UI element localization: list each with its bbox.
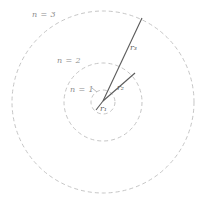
bohr-orbit-diagram: n = 3 n = 2 n = 1 r₃ r₂ r₁ bbox=[0, 0, 198, 203]
orbit-circle-n2 bbox=[64, 63, 142, 141]
radius-label-r1: r₁ bbox=[100, 104, 107, 113]
orbit-label-n1: n = 1 bbox=[70, 85, 94, 94]
radius-label-r2: r₂ bbox=[117, 83, 124, 92]
orbit-label-n3: n = 3 bbox=[32, 10, 56, 19]
radius-label-r3: r₃ bbox=[130, 43, 137, 52]
diagram-svg: n = 3 n = 2 n = 1 r₃ r₂ r₁ bbox=[0, 0, 198, 203]
orbit-label-n2: n = 2 bbox=[57, 56, 81, 65]
orbit-circle-n3 bbox=[12, 11, 194, 193]
